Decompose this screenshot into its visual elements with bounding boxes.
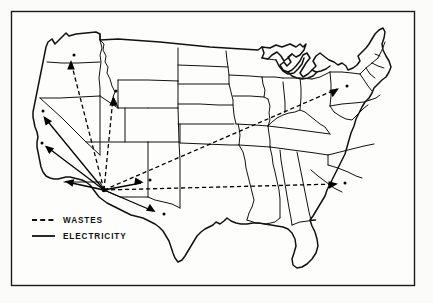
dot-oregon [73, 54, 76, 57]
dot-bay-area [41, 142, 44, 145]
map-figure: WASTES ELECTRICITY [0, 0, 433, 303]
dot-south-carolina [344, 182, 347, 185]
dot-west-texas [163, 213, 166, 216]
figure-container: WASTES ELECTRICITY [0, 0, 433, 303]
dot-new-york [346, 85, 349, 88]
legend-label-wastes: WASTES [63, 216, 103, 225]
dot-north-california [42, 110, 45, 113]
dot-idaho [115, 90, 118, 93]
origin-hub-marker [102, 188, 107, 193]
dot-new-mexico [149, 179, 152, 182]
legend-label-electricity: ELECTRICITY [63, 232, 127, 241]
